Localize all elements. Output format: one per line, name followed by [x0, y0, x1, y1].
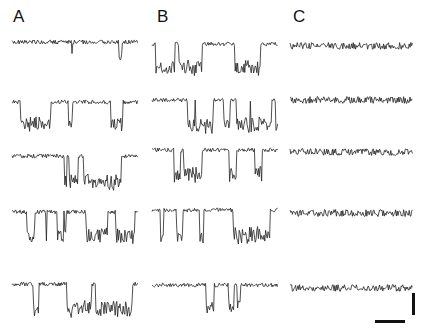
trace-a-2 [12, 100, 138, 131]
trace-c-5 [290, 285, 412, 292]
panel-label-a: A [13, 8, 24, 25]
figure: A B C [0, 0, 430, 333]
trace-a-4 [12, 210, 138, 244]
trace-c-4 [290, 210, 412, 217]
trace-c-3 [290, 149, 412, 156]
panel-label-c: C [293, 8, 305, 25]
trace-a-3 [12, 154, 138, 190]
trace-b-2 [152, 98, 278, 133]
panel-label-b: B [157, 8, 168, 25]
trace-b-1 [152, 42, 278, 76]
trace-a-1 [12, 40, 138, 60]
scale-bar-horizontal [375, 320, 405, 323]
scale-bar-vertical [412, 293, 415, 315]
channel-traces [0, 0, 430, 333]
trace-b-5 [152, 283, 278, 313]
trace-a-5 [12, 282, 138, 318]
trace-c-1 [290, 43, 412, 50]
trace-b-4 [152, 208, 278, 244]
trace-b-3 [152, 148, 278, 183]
trace-c-2 [290, 97, 412, 104]
